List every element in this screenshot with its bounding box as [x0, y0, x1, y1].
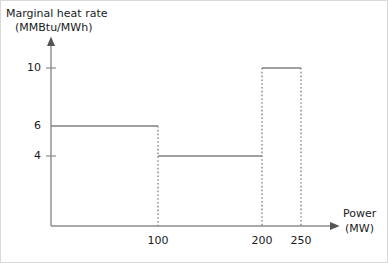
chart-figure: Marginal heat rate (MMBtu/MWh) Power (MW… [0, 0, 388, 263]
plot-area [1, 1, 388, 263]
